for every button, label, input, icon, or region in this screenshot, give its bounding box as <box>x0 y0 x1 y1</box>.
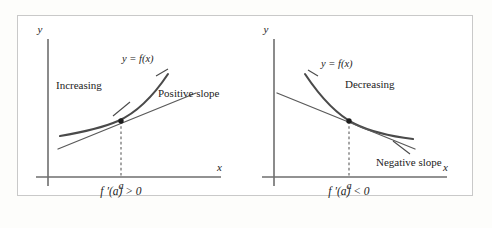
formula-row: f ′(a) > 0 f ′(a) < 0 <box>18 181 472 203</box>
tangent-line-increasing <box>58 93 196 149</box>
behavior-label-decreasing: Decreasing <box>345 78 395 90</box>
tangent-line-decreasing <box>277 93 415 149</box>
increasing-panel: y x y = f(x) Increasing Positive slope a <box>36 23 222 191</box>
formula-increasing: f ′(a) > 0 <box>100 185 142 198</box>
tangency-point-decreasing <box>346 118 351 123</box>
slope-label-increasing: Positive slope <box>158 87 220 99</box>
tangency-point-increasing <box>118 118 123 123</box>
y-axis-label-decreasing: y <box>263 23 269 35</box>
behavior-label-increasing: Increasing <box>56 79 102 91</box>
x-axis-label-increasing: x <box>216 161 222 173</box>
formula-decreasing: f ′(a) < 0 <box>328 185 370 198</box>
y-axis-label-increasing: y <box>37 23 43 35</box>
function-label-decreasing: y = f(x) <box>320 58 353 70</box>
figure-root: y x y = f(x) Increasing Positive slope a… <box>0 0 492 228</box>
behavior-label-leader-increasing <box>113 102 130 116</box>
slope-label-decreasing: Negative slope <box>376 156 442 168</box>
x-axis-label-decreasing: x <box>442 161 448 173</box>
figure-frame: y x y = f(x) Increasing Positive slope a… <box>17 15 473 196</box>
function-label-increasing: y = f(x) <box>121 53 154 65</box>
function-label-leader-decreasing <box>308 70 318 76</box>
decreasing-panel: y x y = f(x) Decreasing Negative slope a <box>262 23 448 191</box>
figure-canvas: y x y = f(x) Increasing Positive slope a… <box>18 16 472 195</box>
